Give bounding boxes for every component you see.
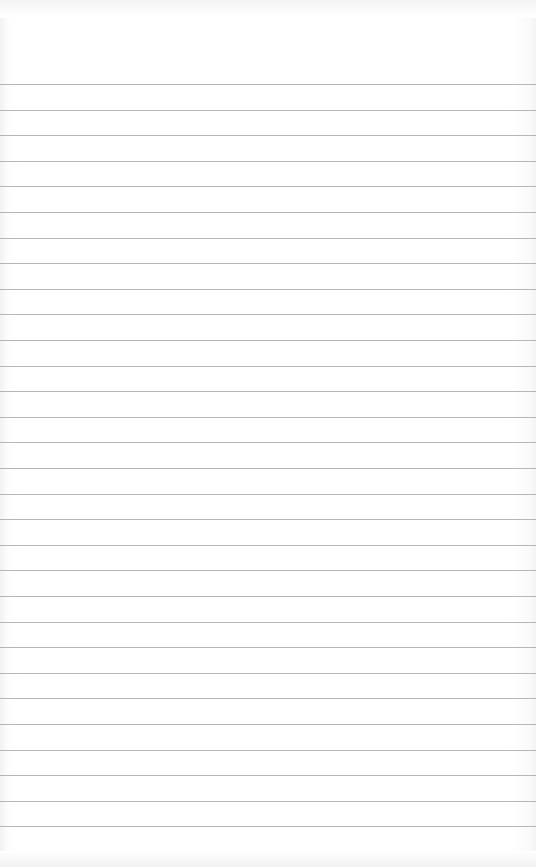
ruled-line xyxy=(0,289,536,290)
ruled-line xyxy=(0,186,536,187)
ruled-line xyxy=(0,212,536,213)
ruled-line xyxy=(0,263,536,264)
ruled-line xyxy=(0,545,536,546)
ruled-line xyxy=(0,161,536,162)
paper-top-shading xyxy=(0,0,536,18)
ruled-line xyxy=(0,570,536,571)
ruled-line xyxy=(0,698,536,699)
ruled-line xyxy=(0,314,536,315)
ruled-line xyxy=(0,673,536,674)
ruled-line xyxy=(0,519,536,520)
ruled-line xyxy=(0,724,536,725)
ruled-line xyxy=(0,468,536,469)
ruled-line xyxy=(0,391,536,392)
ruled-line xyxy=(0,494,536,495)
ruled-line xyxy=(0,84,536,85)
ruled-line xyxy=(0,826,536,827)
ruled-line xyxy=(0,366,536,367)
ruled-line xyxy=(0,750,536,751)
ruled-line xyxy=(0,417,536,418)
ruled-line xyxy=(0,775,536,776)
ruled-line xyxy=(0,596,536,597)
ruled-line xyxy=(0,622,536,623)
ruled-line xyxy=(0,340,536,341)
ruled-line xyxy=(0,647,536,648)
ruled-line xyxy=(0,442,536,443)
paper-bottom-shading xyxy=(0,851,536,867)
ruled-line xyxy=(0,238,536,239)
ruled-line xyxy=(0,135,536,136)
ruled-line xyxy=(0,110,536,111)
ruled-line xyxy=(0,801,536,802)
lined-paper xyxy=(0,0,536,867)
